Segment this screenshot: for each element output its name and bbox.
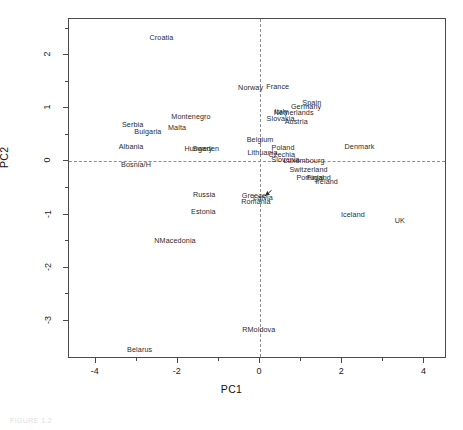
x-tick-major bbox=[177, 358, 178, 363]
scatter-point-label: Estonia bbox=[191, 208, 216, 216]
scatter-point-label: Belarus bbox=[127, 346, 152, 354]
y-tick-label: 1 bbox=[42, 105, 52, 110]
scatter-point-label: Sweden bbox=[193, 145, 220, 153]
x-tick-major bbox=[95, 358, 96, 363]
scatter-point-label: Malta bbox=[168, 124, 186, 132]
scatter-point-label: RMoldova bbox=[242, 326, 275, 334]
vertical-reference-line bbox=[260, 19, 261, 357]
y-tick-label: 2 bbox=[42, 52, 52, 57]
scatter-point-label: Bulgaria bbox=[134, 128, 161, 136]
scatter-point-label: Belgium bbox=[247, 136, 274, 144]
figure-caption: FIGURE 1.2 bbox=[10, 417, 52, 424]
y-tick-label: -3 bbox=[43, 316, 53, 324]
x-tick-minor bbox=[382, 358, 383, 361]
x-tick-label: 0 bbox=[257, 366, 262, 376]
y-tick-label: -1 bbox=[43, 209, 53, 217]
scatter-point-label: Bosnia/H bbox=[121, 161, 151, 169]
scatter-point-label: Denmark bbox=[345, 143, 375, 151]
scatter-point-label: Romania bbox=[241, 198, 270, 206]
plot-area: CroatiaNorwayFranceSpainGermanyItalyNeth… bbox=[68, 18, 446, 358]
x-tick-minor bbox=[136, 358, 137, 361]
scatter-point-label: Croatia bbox=[150, 34, 174, 42]
scatter-point-label: Norway bbox=[238, 84, 263, 92]
scatter-point-label: France bbox=[266, 83, 289, 91]
scatter-point-label: Luxembourg bbox=[284, 157, 325, 165]
x-tick-label: -2 bbox=[173, 366, 181, 376]
latvia-annotation-arrow bbox=[69, 19, 447, 359]
y-axis-label: PC2 bbox=[0, 147, 10, 168]
scatter-point-label: Ireland bbox=[315, 178, 338, 186]
x-tick-major bbox=[423, 358, 424, 363]
figure-root: PC2 PC1 -4-2024 210-1-2-3 CroatiaNorwayF… bbox=[0, 0, 463, 430]
y-tick-label: -2 bbox=[43, 263, 53, 271]
x-tick-major bbox=[259, 358, 260, 363]
x-tick-minor bbox=[300, 358, 301, 361]
scatter-point-label: Austria bbox=[285, 118, 308, 126]
x-tick-label: 4 bbox=[421, 366, 426, 376]
y-tick-label: 0 bbox=[42, 158, 52, 163]
scatter-point-label: NMacedonia bbox=[154, 237, 195, 245]
x-tick-minor bbox=[218, 358, 219, 361]
x-tick-label: 2 bbox=[339, 366, 344, 376]
scatter-point-label: Montenegro bbox=[171, 113, 210, 121]
scatter-point-label: Iceland bbox=[341, 211, 365, 219]
x-axis-label: PC1 bbox=[0, 383, 463, 395]
x-tick-major bbox=[341, 358, 342, 363]
scatter-point-label: Albania bbox=[119, 143, 144, 151]
scatter-point-label: UK bbox=[395, 217, 405, 225]
scatter-point-label: Russia bbox=[193, 191, 216, 199]
x-tick-label: -4 bbox=[91, 366, 99, 376]
